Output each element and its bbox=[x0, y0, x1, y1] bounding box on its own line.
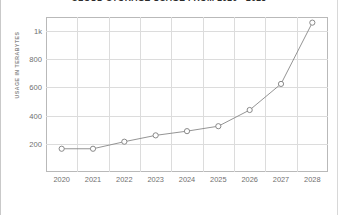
x-tick-label: 2023 bbox=[147, 175, 163, 184]
x-tick-label: 2027 bbox=[273, 175, 289, 184]
y-tick-label: 200 bbox=[29, 139, 42, 148]
x-axis-tick-labels: 202020212022202320242025202620272028 bbox=[46, 175, 328, 195]
x-tick-label: 2028 bbox=[304, 175, 320, 184]
y-axis-tick-labels: 2004006008001k bbox=[0, 17, 46, 172]
y-tick-label: 400 bbox=[29, 111, 42, 120]
x-tick-label: 2026 bbox=[241, 175, 257, 184]
data-point-marker bbox=[184, 129, 189, 134]
y-tick-label: 600 bbox=[29, 83, 42, 92]
x-tick-label: 2021 bbox=[85, 175, 101, 184]
line-series bbox=[46, 17, 328, 172]
x-tick-label: 2022 bbox=[116, 175, 132, 184]
x-tick-label: 2024 bbox=[179, 175, 195, 184]
plot-area bbox=[46, 17, 328, 172]
data-point-marker bbox=[216, 124, 221, 129]
x-tick-label: 2025 bbox=[210, 175, 226, 184]
data-point-marker bbox=[153, 133, 158, 138]
y-tick-label: 800 bbox=[29, 55, 42, 64]
y-tick-label: 1k bbox=[34, 27, 42, 36]
data-point-marker bbox=[90, 146, 95, 151]
data-point-marker bbox=[310, 20, 315, 25]
data-point-marker bbox=[278, 81, 283, 86]
data-point-marker bbox=[122, 139, 127, 144]
x-tick-label: 2020 bbox=[53, 175, 69, 184]
chart-title: CLOUD STORAGE USAGE FROM 2020 - 2028 bbox=[0, 0, 338, 3]
data-point-marker bbox=[59, 146, 64, 151]
data-point-marker bbox=[247, 107, 252, 112]
